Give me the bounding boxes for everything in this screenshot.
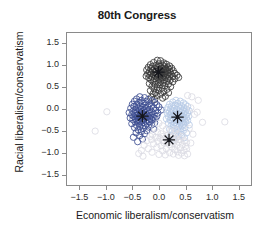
scatter-plot-figure: 80th Congress Racial liberalism/conserva… — [0, 0, 274, 235]
x-tick-label: −1.0 — [91, 192, 121, 202]
scatter-canvas — [67, 33, 252, 186]
data-point — [188, 140, 194, 146]
x-axis-label: Economic liberalism/conservatism — [40, 209, 270, 221]
y-tick-mark — [62, 65, 66, 66]
x-tick-label: 0.0 — [144, 192, 174, 202]
x-tick-mark — [159, 186, 160, 190]
x-tick-mark — [79, 186, 80, 190]
y-tick-label: 1.0 — [33, 59, 59, 69]
data-point — [104, 109, 110, 115]
x-tick-mark — [132, 186, 133, 190]
y-tick-mark — [62, 175, 66, 176]
y-tick-mark — [62, 87, 66, 88]
y-tick-mark — [62, 131, 66, 132]
data-point — [189, 94, 195, 100]
y-axis-label: Racial liberalism/conservatism — [13, 17, 25, 187]
centroid-star-marker — [152, 66, 164, 78]
y-tick-label: 1.5 — [33, 37, 59, 47]
data-point — [222, 119, 228, 125]
y-tick-mark — [62, 43, 66, 44]
y-tick-mark — [62, 153, 66, 154]
centroid-star-marker — [163, 134, 175, 146]
x-tick-label: 0.5 — [171, 192, 201, 202]
data-point — [175, 74, 181, 80]
data-point — [190, 131, 196, 137]
data-point — [135, 139, 141, 145]
y-tick-label: −0.5 — [33, 125, 59, 135]
data-point — [199, 119, 205, 125]
y-tick-mark — [62, 109, 66, 110]
series-pale-gray-cluster — [92, 92, 228, 159]
centroid-star-marker — [171, 111, 183, 123]
y-tick-label: −1.0 — [33, 147, 59, 157]
x-tick-mark — [239, 186, 240, 190]
chart-title: 80th Congress — [0, 9, 274, 21]
x-tick-mark — [106, 186, 107, 190]
data-point — [184, 92, 190, 98]
data-point — [149, 149, 155, 155]
x-tick-mark — [186, 186, 187, 190]
x-tick-label: −0.5 — [117, 192, 147, 202]
y-tick-label: 0.0 — [33, 103, 59, 113]
data-point — [195, 97, 201, 103]
plot-area — [66, 32, 252, 186]
centroid-star-marker — [136, 110, 148, 122]
y-tick-label: 0.5 — [33, 81, 59, 91]
y-tick-label: −1.5 — [33, 169, 59, 179]
x-tick-label: −1.5 — [64, 192, 94, 202]
data-point — [156, 151, 162, 157]
x-tick-mark — [212, 186, 213, 190]
x-tick-label: 1.5 — [224, 192, 254, 202]
data-point — [92, 128, 98, 134]
series-dark-cluster — [143, 57, 182, 102]
x-tick-label: 1.0 — [197, 192, 227, 202]
data-point — [145, 146, 151, 152]
